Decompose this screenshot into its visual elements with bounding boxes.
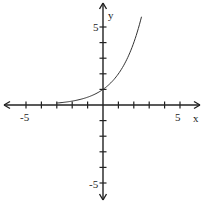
x-tick-label-neg5: -5 [20, 111, 30, 123]
y-axis-label: y [108, 9, 114, 21]
exponential-curve [57, 17, 142, 103]
x-axis [4, 102, 200, 109]
y-tick-label-neg5: -5 [89, 178, 99, 190]
x-tick-label-pos5: 5 [175, 111, 181, 123]
y-tick-label-pos5: 5 [93, 21, 99, 33]
chart-canvas: -5 5 x 5 -5 y [0, 0, 206, 203]
y-axis [100, 3, 107, 200]
x-axis-label: x [193, 112, 199, 124]
